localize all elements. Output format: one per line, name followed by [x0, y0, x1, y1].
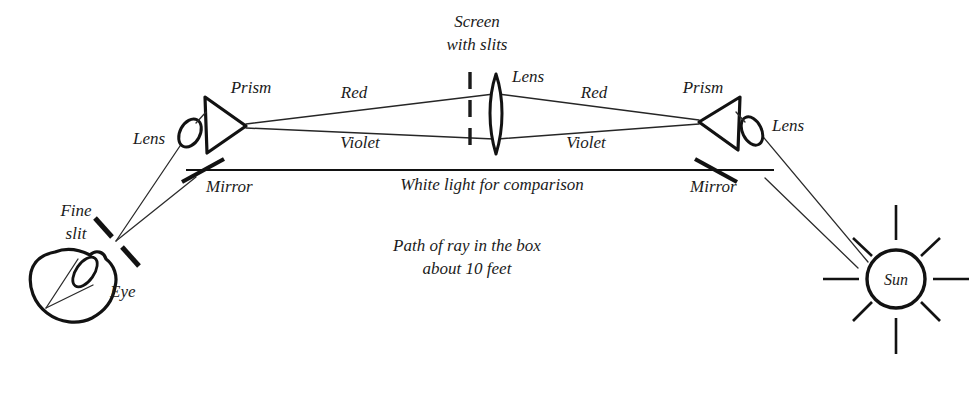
- eye: [30, 249, 116, 322]
- label-violet-right: Violet: [566, 133, 607, 152]
- prism-left-triangle: [205, 97, 246, 153]
- lens-left: [174, 112, 206, 151]
- optics-diagram-canvas: Screen with slits Lens Prism Prism Lens …: [0, 0, 979, 399]
- ray-bundle-eye-side: [116, 143, 196, 241]
- prism-left: [205, 97, 246, 153]
- lens-left-body: [174, 115, 206, 151]
- sun-ray-ne: [921, 238, 940, 256]
- ray-sun-to-mirror: [765, 178, 858, 268]
- label-path-line1: Path of ray in the box: [392, 236, 541, 255]
- red-ray-left: [246, 94, 494, 124]
- label-violet-left: Violet: [340, 133, 381, 152]
- label-sun: Sun: [884, 271, 908, 288]
- sun-ray-sw: [853, 302, 872, 321]
- label-mirror-right: Mirror: [689, 177, 737, 196]
- label-eye: Eye: [109, 282, 136, 301]
- label-mirror-left: Mirror: [205, 177, 253, 196]
- label-red-left: Red: [340, 83, 368, 102]
- sun-ray-se: [921, 302, 940, 321]
- label-lens-left: Lens: [132, 129, 166, 148]
- label-prism-left: Prism: [230, 78, 272, 97]
- optics-diagram: Screen with slits Lens Prism Prism Lens …: [0, 0, 979, 399]
- label-path-line2: about 10 feet: [423, 259, 513, 278]
- label-fine-slit-line2: slit: [66, 224, 88, 243]
- label-red-right: Red: [580, 83, 608, 102]
- label-screen-line1: Screen: [454, 12, 500, 31]
- label-lens-center: Lens: [511, 67, 545, 86]
- label-prism-right: Prism: [682, 78, 724, 97]
- prism-right: [699, 97, 740, 150]
- ray-sun-to-lens: [760, 133, 868, 262]
- ray-slit-to-lens: [116, 143, 182, 241]
- label-fine-slit-line1: Fine: [59, 201, 92, 220]
- lens-right: [736, 112, 767, 149]
- lens-center: [490, 74, 502, 154]
- fine-slit-upper-stroke: [95, 218, 112, 237]
- ray-bundle-sun-side: [760, 133, 868, 268]
- fine-slit-lower-stroke: [122, 247, 139, 266]
- label-screen-line2: with slits: [447, 35, 508, 54]
- lens-center-body: [490, 74, 502, 154]
- prism-right-triangle: [699, 97, 740, 150]
- label-white-light: White light for comparison: [400, 175, 584, 194]
- label-lens-right: Lens: [771, 116, 805, 135]
- ray-slit-to-mirror: [116, 177, 196, 241]
